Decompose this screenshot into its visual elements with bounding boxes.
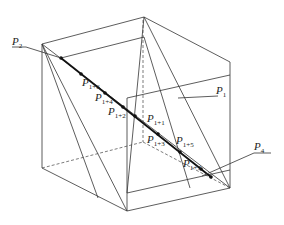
label-p1: P1: [215, 84, 227, 99]
label-p1p1: P1+1: [146, 112, 165, 127]
label-p1p7: P1+7: [182, 157, 201, 172]
label-p1p5: P1+5: [175, 134, 194, 149]
cube-edges: [42, 17, 230, 211]
label-p1p3: P1+3: [146, 133, 165, 148]
label-p1p6: P1+6: [81, 76, 100, 91]
label-p2: P2: [11, 35, 23, 50]
cube-diagram: P2 P1 P4 P1+6 P1+4 P1+2 P1+1 P1+3 P1+5 P…: [0, 0, 284, 225]
